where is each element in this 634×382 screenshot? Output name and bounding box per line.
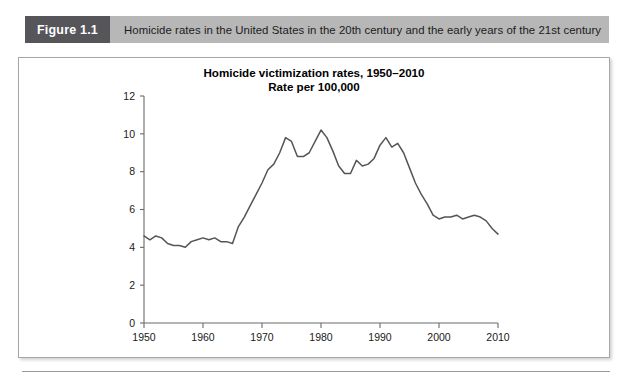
- y-axis-tick-label: 0: [129, 317, 135, 329]
- data-series-line: [144, 130, 498, 247]
- x-axis-ticks: 1950196019701980199020002010: [132, 323, 510, 343]
- x-axis-tick-label: 1980: [309, 331, 333, 343]
- x-axis-tick-label: 1990: [368, 331, 392, 343]
- y-axis-tick-label: 12: [123, 90, 135, 102]
- x-axis-tick-label: 1960: [191, 331, 215, 343]
- plot-area: 024681012 1950196019701980199020002010: [19, 58, 611, 359]
- line-chart-svg: 024681012 1950196019701980199020002010: [19, 58, 611, 359]
- x-axis-tick-label: 1970: [250, 331, 274, 343]
- figure-container: Figure 1.1 Homicide rates in the United …: [0, 0, 634, 382]
- figure-caption-text: Homicide rates in the United States in t…: [110, 16, 609, 43]
- footer-rule: [22, 371, 610, 372]
- y-axis-tick-label: 2: [129, 279, 135, 291]
- x-axis-tick-label: 2000: [427, 331, 451, 343]
- y-axis-tick-label: 10: [123, 128, 135, 140]
- y-axis-ticks: 024681012: [123, 90, 144, 329]
- x-axis-tick-label: 1950: [132, 331, 156, 343]
- figure-caption-bar: Figure 1.1 Homicide rates in the United …: [25, 16, 609, 43]
- x-axis-tick-label: 2010: [486, 331, 510, 343]
- y-axis-tick-label: 6: [129, 203, 135, 215]
- figure-number-tag: Figure 1.1: [25, 16, 110, 43]
- y-axis-tick-label: 4: [129, 241, 135, 253]
- y-axis-tick-label: 8: [129, 165, 135, 177]
- chart-frame: Homicide victimization rates, 1950–2010 …: [18, 57, 610, 358]
